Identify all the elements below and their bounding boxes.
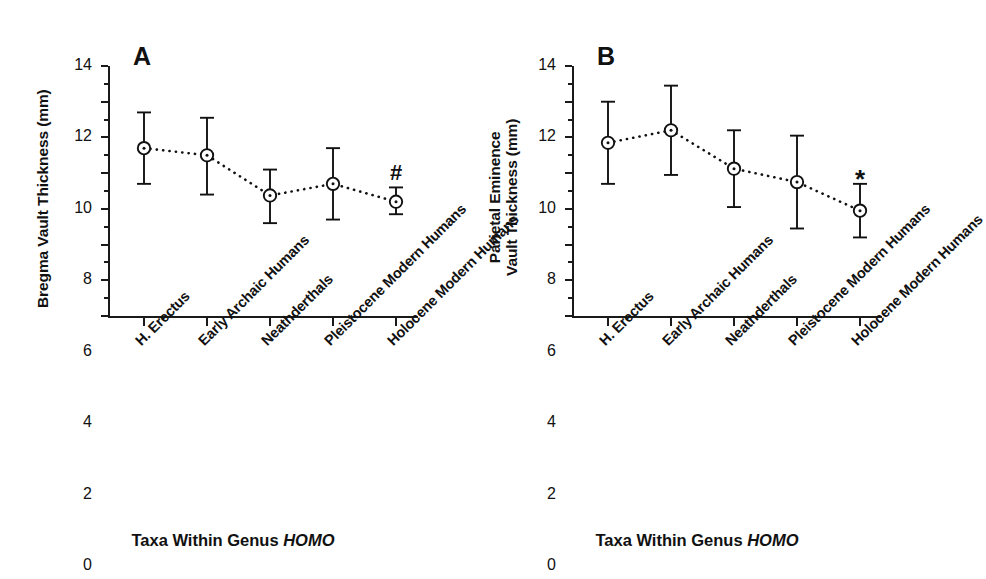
y-axis-tick-label: 6	[83, 343, 92, 359]
data-point-marker	[602, 137, 614, 149]
x-axis-title-a: Taxa Within Genus HOMO	[48, 532, 418, 549]
y-axis-tick: 4	[565, 244, 572, 246]
y-axis-minor-tick	[568, 83, 572, 85]
y-axis-minor-tick	[568, 119, 572, 121]
y-axis-tick-label: 2	[547, 486, 556, 502]
y-axis-tick: 8	[565, 172, 572, 174]
y-axis-tick-label: 14	[538, 57, 556, 73]
y-axis-tick-label: 10	[538, 200, 556, 216]
y-axis-title-b-line-2: Vault Thickness (mm)	[503, 119, 520, 276]
y-axis-tick: 10	[101, 136, 108, 138]
y-axis-minor-tick	[568, 190, 572, 192]
data-point-marker	[201, 149, 213, 161]
y-axis-tick: 0	[565, 315, 572, 317]
chart-panel-b: B Parietal Eminence Vault Thickness (mm)…	[464, 0, 929, 579]
y-axis-tick-label: 2	[83, 486, 92, 502]
x-axis-title-b-text: Taxa Within Genus	[595, 531, 747, 549]
data-point-marker	[390, 196, 402, 208]
y-axis-tick-label: 12	[538, 128, 556, 144]
y-axis-tick-label: 10	[74, 200, 92, 216]
y-axis-tick-label: 14	[74, 57, 92, 73]
y-axis-tick: 0	[101, 315, 108, 317]
y-axis-minor-tick	[568, 226, 572, 228]
data-point-marker	[264, 189, 276, 201]
y-axis-title-b: Parietal Eminence Vault Thickness (mm)	[486, 119, 521, 276]
x-axis-title-a-text: Taxa Within Genus	[131, 531, 283, 549]
x-axis-title-b-genus: HOMO	[747, 531, 798, 549]
data-point-marker	[665, 124, 677, 136]
y-axis-title-a-line-1: Bregma Vault Thickness (mm)	[34, 89, 51, 308]
y-axis-tick: 2	[565, 279, 572, 281]
y-axis-minor-tick	[104, 119, 108, 121]
y-axis-tick: 2	[101, 279, 108, 281]
y-axis-minor-tick	[104, 83, 108, 85]
x-axis-title-a-genus: HOMO	[283, 531, 334, 549]
y-axis-minor-tick	[104, 226, 108, 228]
y-axis-minor-tick	[104, 261, 108, 263]
y-axis-tick-label: 4	[83, 414, 92, 430]
y-axis-tick: 10	[565, 136, 572, 138]
y-axis-tick: 14	[565, 65, 572, 67]
y-axis-tick-label: 12	[74, 128, 92, 144]
data-point-marker	[327, 178, 339, 190]
y-axis-minor-tick	[104, 297, 108, 299]
y-axis-minor-tick	[568, 261, 572, 263]
data-point-marker	[728, 162, 740, 174]
y-axis-title-a: Bregma Vault Thickness (mm)	[34, 89, 51, 308]
y-axis-tick-label: 0	[547, 557, 556, 573]
chart-panel-a: A Bregma Vault Thickness (mm) 0246810121…	[0, 0, 465, 579]
y-axis-tick: 12	[565, 101, 572, 103]
significance-marker: *	[855, 166, 865, 192]
data-point-marker	[854, 204, 866, 216]
y-axis-tick-label: 4	[547, 414, 556, 430]
y-axis-tick: 6	[565, 208, 572, 210]
y-axis-tick: 6	[101, 208, 108, 210]
significance-marker: #	[390, 162, 402, 184]
y-axis-minor-tick	[568, 154, 572, 156]
y-axis-tick-label: 8	[547, 271, 556, 287]
x-axis-title-b: Taxa Within Genus HOMO	[512, 532, 882, 549]
y-axis-minor-tick	[568, 297, 572, 299]
y-axis-minor-tick	[104, 154, 108, 156]
data-point-marker	[138, 142, 150, 154]
y-axis-tick-label: 8	[83, 271, 92, 287]
y-axis-tick: 8	[101, 172, 108, 174]
y-axis-tick: 4	[101, 244, 108, 246]
y-axis-title-b-line-1: Parietal Eminence	[486, 119, 503, 276]
y-axis-tick: 14	[101, 65, 108, 67]
data-point-marker	[791, 176, 803, 188]
y-axis-tick-label: 6	[547, 343, 556, 359]
y-axis-tick: 12	[101, 101, 108, 103]
y-axis-tick-label: 0	[83, 557, 92, 573]
y-axis-minor-tick	[104, 190, 108, 192]
